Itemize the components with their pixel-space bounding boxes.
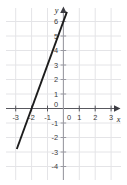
y-tick-label-2: 2 [54,75,58,84]
chart-svg: -3 -2 -1 0 1 2 3 6 5 4 3 2 1 0 -1 -2 -3 … [0,0,127,185]
y-tick-label--3: -3 [51,148,58,157]
x-tick-label-2: 2 [93,113,97,122]
y-tick-label--2: -2 [51,133,58,142]
y-tick-label--1: -1 [51,119,58,128]
x-tick-label--3: -3 [12,113,19,122]
y-tick-label-0: 0 [54,100,58,109]
x-tick-label-1: 1 [77,113,81,122]
y-axis-label: y [54,6,59,15]
x-tick-label-0: 0 [67,113,71,122]
y-tick-label-6: 6 [54,17,58,26]
y-tick-label-1: 1 [54,90,58,99]
y-tick-label--4: -4 [51,162,58,171]
x-axis-label: x [116,115,121,124]
y-tick-label-3: 3 [54,61,58,70]
x-tick-label-3: 3 [109,113,113,122]
x-tick-label--1: -1 [44,113,51,122]
coordinate-plane-chart: -3 -2 -1 0 1 2 3 6 5 4 3 2 1 0 -1 -2 -3 … [0,0,127,185]
